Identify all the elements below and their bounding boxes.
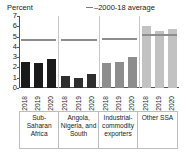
- bar: [34, 63, 43, 88]
- category-label: Sub-Saharan Africa: [20, 114, 58, 139]
- bar: [142, 26, 151, 88]
- category-label: Industrial-commodity exporters: [99, 114, 137, 139]
- x-axis-year-label: 2019: [116, 96, 123, 111]
- x-axis-year-label: 2018: [62, 96, 69, 111]
- bar: [115, 62, 124, 88]
- legend-label: –2000-18 average: [94, 3, 155, 12]
- x-axis-year-label: 2018: [103, 96, 110, 111]
- x-axis-year-labels: 2018201920202018201920202018201920202018…: [19, 89, 179, 111]
- category-label: Other SSA: [142, 114, 174, 122]
- x-axis-year-label: 2019: [35, 96, 42, 111]
- bar-group: [19, 16, 58, 88]
- category-box: Sub-Saharan Africa: [19, 111, 59, 149]
- bar-group: [140, 16, 179, 88]
- x-axis-year-label: 2019: [156, 96, 163, 111]
- category-label: Angola, Nigeria, and South: [59, 114, 97, 139]
- bar: [128, 57, 137, 88]
- category-box: Industrial-commodity exporters: [98, 111, 138, 149]
- average-line: [61, 39, 96, 40]
- x-axis-year-label: 2019: [76, 96, 83, 111]
- average-line: [142, 34, 177, 35]
- bar-group: [100, 16, 139, 88]
- chart-legend: –2000-18 average: [86, 3, 155, 12]
- average-line: [102, 38, 137, 39]
- category-box: Other SSA: [137, 111, 177, 149]
- bar: [21, 62, 30, 88]
- category-box: Angola, Nigeria, and South: [58, 111, 98, 149]
- bar: [155, 31, 164, 88]
- x-axis-year-label: 2018: [143, 96, 150, 111]
- category-labels-row: Sub-Saharan AfricaAngola, Nigeria, and S…: [19, 111, 179, 149]
- x-axis-year-label: 2020: [89, 96, 96, 111]
- bar: [74, 78, 83, 88]
- bar-group: [59, 16, 98, 88]
- x-axis-year-label: 2018: [22, 96, 29, 111]
- chart-container: Percent –2000-18 average 01234567 201820…: [0, 0, 186, 153]
- bar: [102, 63, 111, 88]
- bar: [87, 74, 96, 88]
- bar: [61, 76, 70, 88]
- x-axis-year-label: 2020: [129, 96, 136, 111]
- x-axis-year-label: 2020: [169, 96, 176, 111]
- plot-area: 01234567: [19, 16, 179, 88]
- bar: [47, 59, 56, 88]
- line-marker-icon: [86, 7, 93, 8]
- bar: [168, 29, 177, 88]
- y-axis-title: Percent: [7, 3, 33, 12]
- average-line: [21, 39, 56, 40]
- x-axis-year-label: 2020: [48, 96, 55, 111]
